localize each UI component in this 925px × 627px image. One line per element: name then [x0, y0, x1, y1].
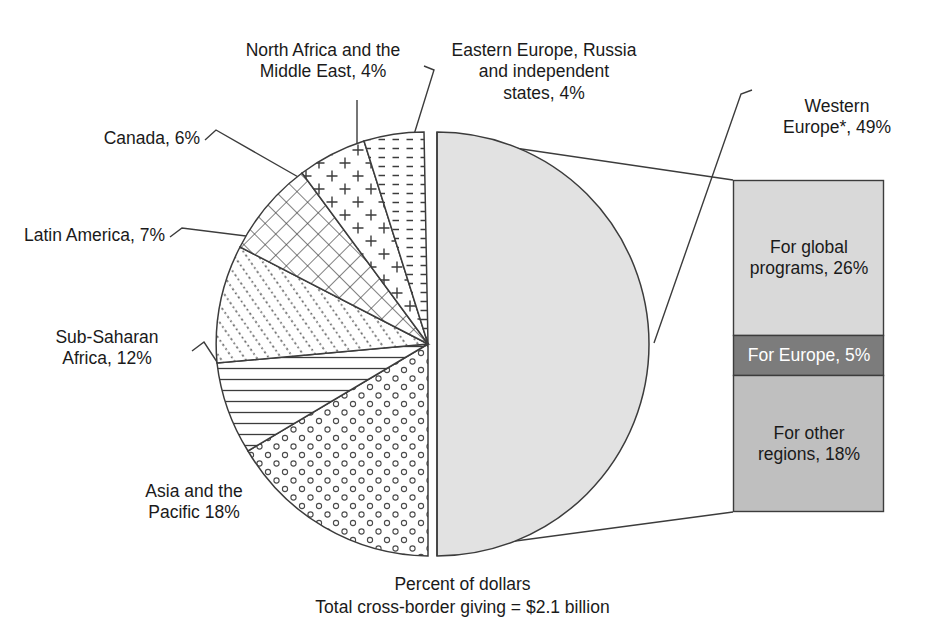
slice-label-sub-saharan-africa: Sub-Saharan Africa, 12% — [28, 327, 186, 370]
breakout-label-global-programs: For global programs, 26% — [734, 181, 884, 335]
leader-line-canada — [205, 130, 300, 178]
slice-label-north-africa-middle-east: North Africa and the Middle East, 4% — [218, 40, 428, 83]
chart-caption-total: Total cross-border giving = $2.1 billion — [0, 596, 925, 619]
breakout-label-for-europe: For Europe, 5% — [734, 336, 884, 375]
slice-label-asia-pacific: Asia and the Pacific 18% — [110, 481, 278, 524]
slice-label-canada: Canada, 6% — [35, 128, 200, 149]
breakout-label-other-regions: For other regions, 18% — [734, 376, 884, 511]
chart-page: North Africa and the Middle East, 4% Eas… — [0, 0, 925, 627]
slice-label-western-europe: Western Europe*, 49% — [762, 96, 912, 139]
chart-caption-units: Percent of dollars — [0, 573, 925, 596]
slice-label-latin-america: Latin America, 7% — [5, 225, 165, 246]
slice-label-eastern-europe: Eastern Europe, Russia and independent s… — [434, 40, 654, 104]
leader-line-sub-saharan-africa — [192, 342, 219, 365]
pie-slice-western-europe — [437, 132, 649, 556]
